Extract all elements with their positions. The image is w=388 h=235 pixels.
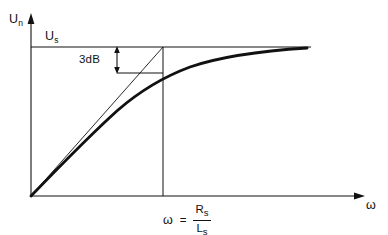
- corner-frequency-formula: ω = Rs Ls: [163, 203, 212, 235]
- bandwidth-3db-label: 3dB: [79, 54, 100, 66]
- y-axis-label: Un: [9, 13, 23, 26]
- x-axis-label: ω: [366, 199, 376, 212]
- 3db-measure-arrow: [114, 46, 120, 74]
- formula-equals: =: [180, 214, 187, 226]
- formula-denominator: Ls: [193, 220, 210, 235]
- y-axis: [28, 13, 35, 196]
- x-axis: [31, 193, 365, 200]
- formula-omega: ω: [163, 213, 173, 227]
- formula-numerator: Rs: [192, 203, 211, 220]
- figure-root: Un Us 3dB ω ω = Rs Ls: [0, 0, 388, 235]
- saturation-level-label: Us: [45, 30, 58, 43]
- formula-fraction: Rs Ls: [192, 203, 211, 235]
- response-curve: [31, 48, 307, 196]
